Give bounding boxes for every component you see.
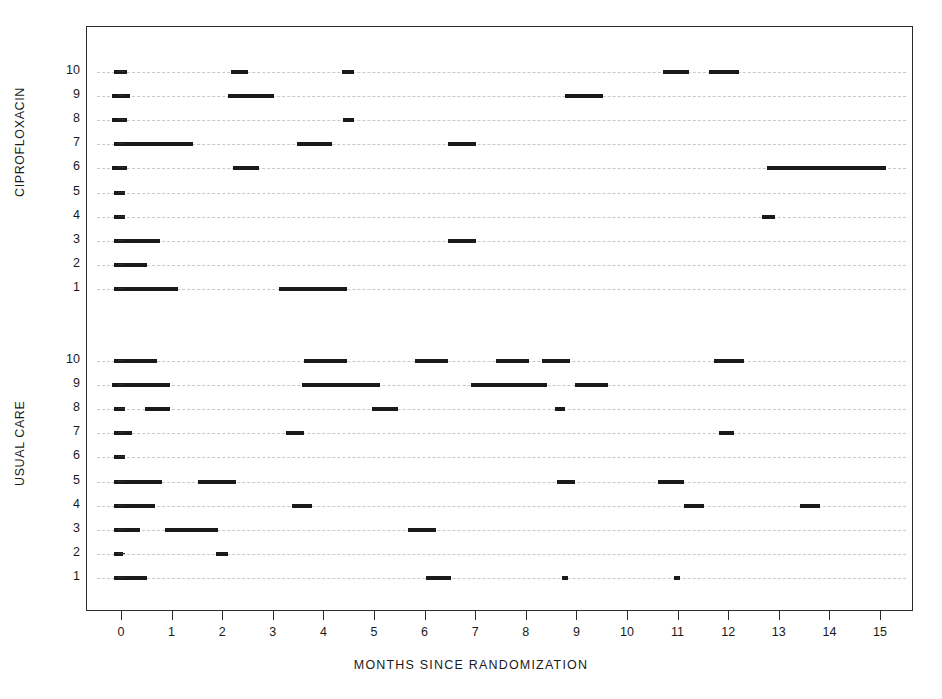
x-axis-tick-label: 14	[814, 625, 844, 639]
interval-bar	[228, 94, 274, 98]
y-axis-tick-mark	[118, 529, 125, 530]
gridline	[97, 265, 906, 266]
interval-bar	[674, 576, 680, 580]
y-axis-tick-mark	[118, 216, 125, 217]
group-title-usual-care: USUAL CARE	[13, 446, 27, 486]
gridline	[97, 433, 906, 434]
interval-bar	[279, 287, 347, 291]
x-axis: 0123456789101112131415	[86, 611, 913, 661]
y-axis-tick-mark	[118, 288, 125, 289]
y-axis-tick-label: 1	[52, 570, 80, 583]
x-axis-tick-label: 0	[106, 625, 136, 639]
gridline	[97, 578, 906, 579]
interval-bar	[415, 359, 448, 363]
y-axis-tick-label: 6	[52, 449, 80, 462]
y-axis-tick-label: 10	[52, 353, 80, 366]
gridline	[97, 217, 906, 218]
group-title-ciprofloxacin: CIPROFLOXACIN	[13, 157, 27, 197]
y-axis-tick-mark	[118, 143, 125, 144]
x-axis-tick-label: 13	[764, 625, 794, 639]
y-axis-tick-mark	[118, 505, 125, 506]
y-axis-tick-mark	[118, 384, 125, 385]
interval-bar	[145, 407, 170, 411]
interval-bar	[342, 70, 354, 74]
interval-bar	[448, 142, 476, 146]
y-axis-tick-mark	[118, 240, 125, 241]
interval-bar	[575, 383, 608, 387]
gridline	[97, 96, 906, 97]
interval-bar	[562, 576, 568, 580]
interval-bar	[719, 431, 734, 435]
y-axis-tick-mark	[118, 577, 125, 578]
gridline	[97, 289, 906, 290]
x-axis-tick-mark	[779, 611, 780, 620]
y-axis-tick-label: 3	[52, 233, 80, 246]
x-axis-title: MONTHS SINCE RANDOMIZATION	[0, 658, 942, 672]
y-axis-tick-mark	[118, 360, 125, 361]
gridline	[97, 241, 906, 242]
x-axis-tick-mark	[172, 611, 173, 620]
interval-bar	[555, 407, 565, 411]
plot-area	[86, 26, 913, 611]
interval-bar	[216, 552, 229, 556]
y-axis-tick-mark	[118, 408, 125, 409]
interval-bar	[800, 504, 820, 508]
x-axis-tick-label: 8	[511, 625, 541, 639]
y-axis-tick-label: 2	[52, 546, 80, 559]
y-axis-tick-mark	[118, 432, 125, 433]
y-axis-tick-label: 3	[52, 522, 80, 535]
x-axis-tick-label: 10	[612, 625, 642, 639]
x-axis-tick-label: 6	[410, 625, 440, 639]
x-axis-tick-mark	[576, 611, 577, 620]
interval-bar	[198, 480, 236, 484]
interval-bar	[714, 359, 744, 363]
gridline	[97, 72, 906, 73]
y-axis-tick-label: 10	[52, 64, 80, 77]
y-axis-tick-mark	[118, 553, 125, 554]
y-axis-tick-label: 7	[52, 425, 80, 438]
x-axis-tick-mark	[374, 611, 375, 620]
x-axis-tick-label: 15	[865, 625, 895, 639]
interval-bar	[231, 70, 249, 74]
y-axis-tick-mark	[118, 456, 125, 457]
gridline	[97, 120, 906, 121]
y-axis-tick-mark	[118, 481, 125, 482]
x-axis-tick-mark	[323, 611, 324, 620]
x-axis-tick-label: 11	[663, 625, 693, 639]
interval-bar	[372, 407, 397, 411]
interval-bar	[767, 166, 886, 170]
gridline	[97, 530, 906, 531]
interval-bar	[448, 239, 476, 243]
y-axis-tick-mark	[118, 71, 125, 72]
gridline	[97, 457, 906, 458]
interval-bar	[471, 383, 547, 387]
x-axis-tick-label: 2	[207, 625, 237, 639]
y-axis-tick-label: 5	[52, 474, 80, 487]
interval-bar	[496, 359, 529, 363]
interval-bar	[557, 480, 575, 484]
gridline	[97, 144, 906, 145]
x-axis-tick-label: 9	[561, 625, 591, 639]
y-axis-labels: 1098765432110987654321	[40, 26, 80, 611]
interval-bar	[658, 480, 683, 484]
x-axis-tick-mark	[273, 611, 274, 620]
x-axis-tick-label: 3	[258, 625, 288, 639]
y-axis-tick-mark	[118, 192, 125, 193]
interval-bar	[297, 142, 332, 146]
x-axis-tick-mark	[829, 611, 830, 620]
y-axis-tick-label: 2	[52, 257, 80, 270]
plot-inner	[87, 27, 912, 610]
y-axis-tick-mark	[118, 95, 125, 96]
x-axis-tick-label: 1	[157, 625, 187, 639]
interval-bar	[684, 504, 704, 508]
interval-bar	[565, 94, 603, 98]
gridline	[97, 193, 906, 194]
y-axis-tick-label: 4	[52, 498, 80, 511]
x-axis-tick-label: 12	[713, 625, 743, 639]
interval-bar	[408, 528, 436, 532]
interval-bar	[762, 215, 775, 219]
y-axis-tick-label: 1	[52, 281, 80, 294]
y-axis-tick-mark	[118, 167, 125, 168]
y-axis-tick-label: 9	[52, 377, 80, 390]
x-axis-tick-label: 5	[359, 625, 389, 639]
